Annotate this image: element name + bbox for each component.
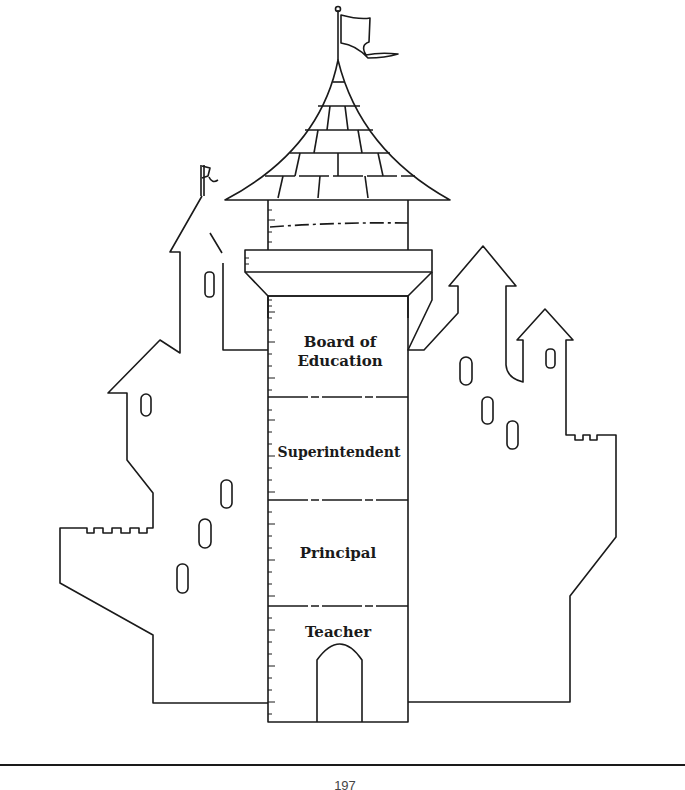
main-flag-icon [336,7,399,61]
tower-roof [225,60,450,200]
left-castle [60,165,268,703]
board-line2: Education [275,352,405,371]
level-board-of-education: Board of Education [275,333,405,371]
level-superintendent: Superintendent [268,444,410,460]
level-principal: Principal [268,544,408,562]
board-line1: Board of [275,333,405,352]
door [317,644,362,722]
page-number: 197 [320,778,370,790]
castle-drawing [0,0,685,790]
level-teacher: Teacher [268,623,408,641]
right-castle [408,246,616,702]
